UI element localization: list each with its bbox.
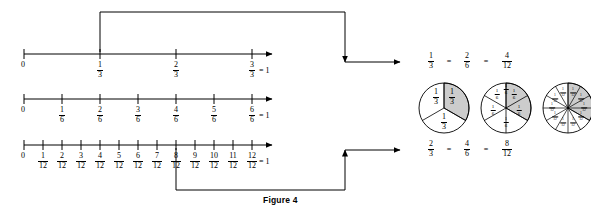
fraction-denominator: 12: [247, 162, 257, 170]
fraction-numerator: 9: [190, 152, 200, 160]
fraction-numerator: 1: [449, 88, 455, 96]
pie-twelfths-label-5: 1 12: [570, 118, 576, 127]
twelfths-tick-12: 12 12: [247, 151, 257, 170]
pie-twelfths-label-4: 1 12: [578, 112, 584, 121]
fraction-numerator: 2: [173, 61, 179, 69]
fraction-numerator: 1: [581, 103, 587, 107]
connector-arrow-lower: [176, 148, 345, 190]
fraction-denominator: 12: [76, 162, 86, 170]
twelfths-tick-5: 5 12: [114, 151, 124, 170]
fraction-numerator: 7: [152, 152, 162, 160]
pie-twelfths-label-9: 1 12: [552, 94, 558, 103]
equation-term: 4 12: [502, 52, 512, 70]
twelfths-zero-label: 0: [21, 151, 25, 160]
fraction-denominator: 6: [135, 116, 141, 124]
pie-sixths-label-5: 1 6: [495, 88, 500, 100]
fraction-denominator: 12: [190, 162, 200, 170]
thirds-tick-3: 3 3: [249, 60, 255, 79]
sixths-tick-2: 2 6: [97, 105, 103, 124]
fraction-numerator: 1: [560, 88, 566, 92]
number-line-sixths: [24, 94, 272, 104]
fraction-denominator: 12: [570, 124, 576, 128]
twelfths-tick-3: 3 12: [76, 151, 86, 170]
pie-twelfths-label-1: 1 12: [570, 88, 576, 97]
fraction-numerator: 8: [171, 152, 181, 160]
twelfths-tick-10: 10 12: [209, 151, 219, 170]
fraction-denominator: 6: [97, 116, 103, 124]
sixths-tick-5: 5 6: [211, 105, 217, 124]
equals-sign: =: [434, 57, 464, 66]
pie-twelfths-label-7: 1 12: [552, 112, 558, 121]
fraction-numerator: 3: [76, 152, 86, 160]
fraction-denominator: 12: [560, 94, 566, 98]
fraction-numerator: 1: [441, 113, 447, 121]
fraction-numerator: 1: [517, 104, 522, 109]
twelfths-tick-1: 1 12: [38, 151, 48, 170]
pie-thirds-label-3: 1 3: [441, 113, 447, 131]
fraction-denominator: 3: [433, 98, 439, 106]
twelfths-tick-9: 9 12: [190, 151, 200, 170]
fraction-denominator: 12: [560, 124, 566, 128]
fraction-numerator: 1: [552, 112, 558, 116]
fraction-numerator: 1: [504, 116, 509, 121]
number-line-twelfths: [24, 140, 272, 150]
fraction-numerator: 2: [97, 106, 103, 114]
fraction-denominator: 12: [133, 162, 143, 170]
fraction-denominator: 3: [97, 71, 103, 79]
fraction-numerator: 1: [504, 83, 509, 88]
fraction-numerator: 1: [578, 112, 584, 116]
twelfths-tick-6: 6 12: [133, 151, 143, 170]
fraction-numerator: 4: [502, 52, 512, 60]
pie-thirds-label-1: 1 3: [449, 88, 455, 106]
fraction-numerator: 1: [495, 88, 500, 93]
figure-caption: Figure 4: [263, 195, 298, 205]
diagram-vector-layer: [0, 0, 591, 220]
fraction-numerator: 1: [433, 88, 439, 96]
fraction-denominator: 12: [502, 150, 512, 158]
fraction-numerator: 5: [211, 106, 217, 114]
fraction-denominator: 6: [504, 123, 509, 128]
pie-sixths-label-4: 1 6: [491, 104, 496, 116]
fraction-denominator: 6: [512, 95, 517, 100]
equals-sign: =: [470, 57, 502, 66]
fraction-denominator: 3: [449, 98, 455, 106]
sixths-tick-4: 4 6: [173, 105, 179, 124]
twelfths-tick-4: 4 12: [95, 151, 105, 170]
fraction-numerator: 1: [97, 61, 103, 69]
fraction-denominator: 3: [441, 123, 447, 131]
fraction-denominator: 12: [209, 162, 219, 170]
fraction-denominator: 6: [517, 111, 522, 116]
pie-twelfths-label-10: 1 12: [560, 88, 566, 97]
fraction-denominator: 12: [570, 94, 576, 98]
equals-sign: =: [470, 145, 502, 154]
fraction-denominator: 12: [549, 109, 555, 113]
fraction-denominator: 12: [38, 162, 48, 170]
twelfths-tick-7: 7 12: [152, 151, 162, 170]
fraction-denominator: 6: [504, 90, 509, 95]
pie-sixths-label-3: 1 6: [504, 116, 509, 128]
pie-thirds-label-2: 1 3: [433, 88, 439, 106]
fraction-numerator: 1: [38, 152, 48, 160]
fraction-denominator: 6: [249, 116, 255, 124]
fraction-numerator: 12: [247, 152, 257, 160]
fraction-numerator: 5: [114, 152, 124, 160]
fraction-numerator: 3: [249, 61, 255, 69]
fraction-numerator: 10: [209, 152, 219, 160]
fraction-denominator: 12: [95, 162, 105, 170]
fraction-denominator: 6: [491, 111, 496, 116]
thirds-tick-1: 1 3: [97, 60, 103, 79]
equation-row-two-thirds: 2 3 = 4 6 = 8 12: [428, 140, 512, 158]
fraction-numerator: 1: [570, 118, 576, 122]
pie-sixths-label-6: 1 6: [504, 83, 509, 95]
equation-term: 8 12: [502, 140, 512, 158]
equation-row-one-third: 1 3 = 2 6 = 4 12: [428, 52, 512, 70]
fraction-numerator: 11: [228, 152, 238, 160]
fraction-numerator: 1: [491, 104, 496, 109]
fraction-denominator: 12: [578, 118, 584, 122]
twelfths-equals-one: = 1: [259, 157, 270, 166]
sixths-tick-3: 3 6: [135, 105, 141, 124]
fraction-denominator: 12: [552, 118, 558, 122]
pie-twelfths-label-8: 1 12: [549, 103, 555, 112]
fraction-denominator: 12: [552, 100, 558, 104]
fraction-denominator: 12: [152, 162, 162, 170]
